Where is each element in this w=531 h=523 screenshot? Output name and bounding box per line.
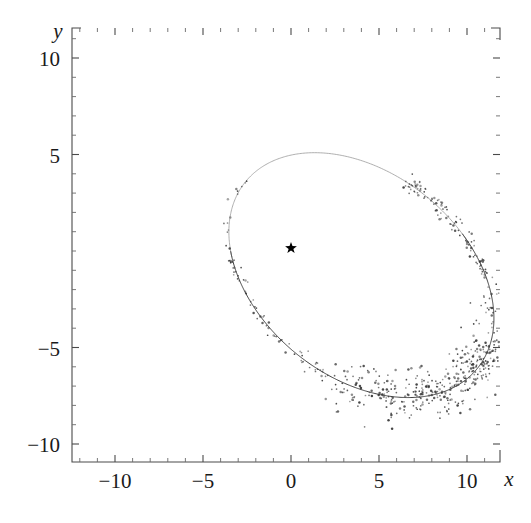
scatter-point bbox=[404, 395, 407, 398]
scatter-point bbox=[469, 408, 472, 411]
scatter-point bbox=[496, 356, 499, 359]
scatter-point bbox=[470, 302, 472, 304]
scatter-point bbox=[435, 380, 437, 382]
scatter-point bbox=[464, 375, 466, 377]
scatter-point bbox=[485, 302, 487, 304]
scatter-point bbox=[488, 368, 490, 370]
scatter-point bbox=[439, 382, 441, 384]
scatter-point bbox=[335, 384, 337, 386]
scatter-point bbox=[467, 389, 469, 391]
scatter-point bbox=[388, 396, 390, 398]
scatter-point bbox=[241, 186, 243, 188]
scatter-point bbox=[378, 375, 380, 377]
scatter-point bbox=[437, 391, 439, 393]
scatter-point bbox=[449, 394, 451, 396]
scatter-point bbox=[244, 279, 247, 282]
tick-marks bbox=[72, 28, 500, 462]
scatter-point bbox=[476, 364, 478, 366]
scatter-point bbox=[361, 377, 364, 380]
scatter-point bbox=[449, 388, 452, 391]
scatter-point bbox=[393, 401, 395, 403]
scatter-point bbox=[358, 401, 361, 404]
scatter-point bbox=[449, 382, 451, 384]
scatter-point bbox=[473, 378, 475, 380]
scatter-point bbox=[256, 318, 258, 320]
scatter-point bbox=[428, 394, 431, 397]
scatter-point bbox=[406, 379, 408, 381]
scatter-point bbox=[472, 381, 475, 384]
scatter-point bbox=[468, 231, 470, 233]
scatter-point bbox=[456, 216, 458, 218]
scatter-point bbox=[490, 357, 492, 359]
scatter-point bbox=[377, 383, 380, 386]
scatter-point bbox=[457, 384, 460, 387]
scatter-point bbox=[489, 349, 491, 351]
scatter-point bbox=[452, 366, 454, 368]
scatter-point bbox=[351, 399, 354, 402]
x-tick-label: −10 bbox=[99, 469, 132, 493]
scatter-point bbox=[351, 393, 354, 396]
scatter-point bbox=[410, 189, 412, 191]
scatter-point bbox=[485, 345, 487, 347]
scatter-point bbox=[469, 363, 471, 365]
scatter-point bbox=[437, 386, 439, 388]
scatter-point bbox=[420, 409, 422, 411]
scatter-point bbox=[337, 410, 340, 413]
scatter-point bbox=[343, 370, 346, 373]
scatter-point bbox=[367, 371, 370, 374]
x-tick-label: 10 bbox=[457, 469, 478, 493]
scatter-point bbox=[438, 388, 441, 391]
scatter-point bbox=[315, 363, 317, 365]
scatter-point bbox=[246, 180, 248, 182]
scatter-point bbox=[394, 388, 396, 390]
scatter-point bbox=[413, 190, 415, 192]
scatter-point bbox=[475, 366, 477, 368]
scatter-point bbox=[368, 394, 370, 396]
scatter-point bbox=[448, 403, 450, 405]
scatter-point bbox=[464, 353, 467, 356]
scatter-point bbox=[456, 404, 459, 407]
scatter-point bbox=[427, 371, 429, 373]
y-tick-label: 5 bbox=[50, 144, 61, 168]
scatter-point bbox=[359, 377, 361, 379]
scatter-point bbox=[358, 379, 360, 381]
scatter-point bbox=[272, 334, 275, 337]
scatter-point bbox=[384, 382, 386, 384]
scatter-point bbox=[433, 197, 436, 200]
scatter-point bbox=[460, 390, 463, 393]
scatter-point bbox=[322, 371, 324, 373]
axis-tick-labels: −10−50510105−5−10 bbox=[27, 47, 477, 493]
scatter-point bbox=[487, 379, 489, 381]
scatter-point bbox=[360, 366, 362, 368]
scatter-point bbox=[491, 327, 493, 329]
scatter-point bbox=[478, 355, 481, 358]
scatter-point bbox=[460, 369, 462, 371]
scatter-point bbox=[495, 310, 497, 312]
scatter-point bbox=[472, 370, 474, 372]
scatter-point bbox=[473, 374, 475, 376]
scatter-point bbox=[250, 301, 252, 303]
scatter-point bbox=[455, 401, 457, 403]
scatter-point bbox=[369, 392, 371, 394]
scatter-point bbox=[463, 400, 465, 402]
scatter-point bbox=[341, 382, 343, 384]
scatter-point bbox=[320, 369, 322, 371]
scatter-point bbox=[470, 233, 473, 236]
scatter-point bbox=[483, 358, 485, 360]
scatter-point bbox=[228, 260, 230, 262]
scatter-point bbox=[498, 345, 500, 347]
scatter-point bbox=[428, 385, 430, 387]
scatter-point bbox=[447, 373, 450, 376]
scatter-point bbox=[474, 254, 476, 256]
scatter-point bbox=[448, 215, 450, 217]
scatter-point bbox=[300, 360, 302, 362]
scatter-point bbox=[485, 373, 487, 375]
scatter-point bbox=[472, 355, 475, 358]
scatter-point bbox=[473, 240, 475, 242]
y-tick-label: −5 bbox=[38, 337, 60, 361]
scatter-point bbox=[439, 412, 441, 414]
scatter-point bbox=[454, 377, 456, 379]
scatter-point bbox=[491, 350, 493, 352]
scatter-point bbox=[491, 314, 494, 317]
scatter-point bbox=[309, 367, 311, 369]
